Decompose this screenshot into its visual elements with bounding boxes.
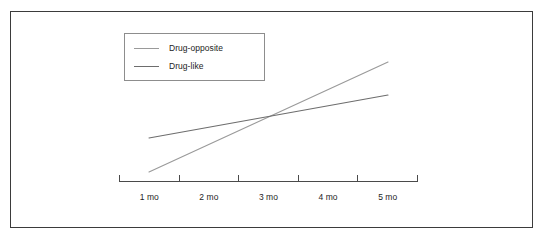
x-tick-label-2mo: 2 mo: [179, 192, 239, 202]
line-chart-plot: [0, 0, 539, 241]
x-tick-label-1mo: 1 mo: [120, 192, 180, 202]
chart-legend: Drug-opposite Drug-like: [124, 33, 265, 81]
legend-label-drug-like: Drug-like: [169, 61, 203, 71]
figure-container: Drug-opposite Drug-like 1 mo 2 mo 3 mo 4…: [0, 0, 539, 241]
x-tick-label-3mo: 3 mo: [239, 192, 299, 202]
legend-item-drug-like: Drug-like: [134, 59, 203, 73]
legend-swatch-drug-like: [134, 66, 159, 67]
x-tick-label-5mo: 5 mo: [358, 192, 418, 202]
series-line-drug-like: [149, 95, 388, 138]
legend-swatch-drug-opposite: [134, 48, 159, 49]
legend-label-drug-opposite: Drug-opposite: [169, 43, 223, 53]
legend-item-drug-opposite: Drug-opposite: [134, 41, 223, 55]
x-tick-label-4mo: 4 mo: [298, 192, 358, 202]
